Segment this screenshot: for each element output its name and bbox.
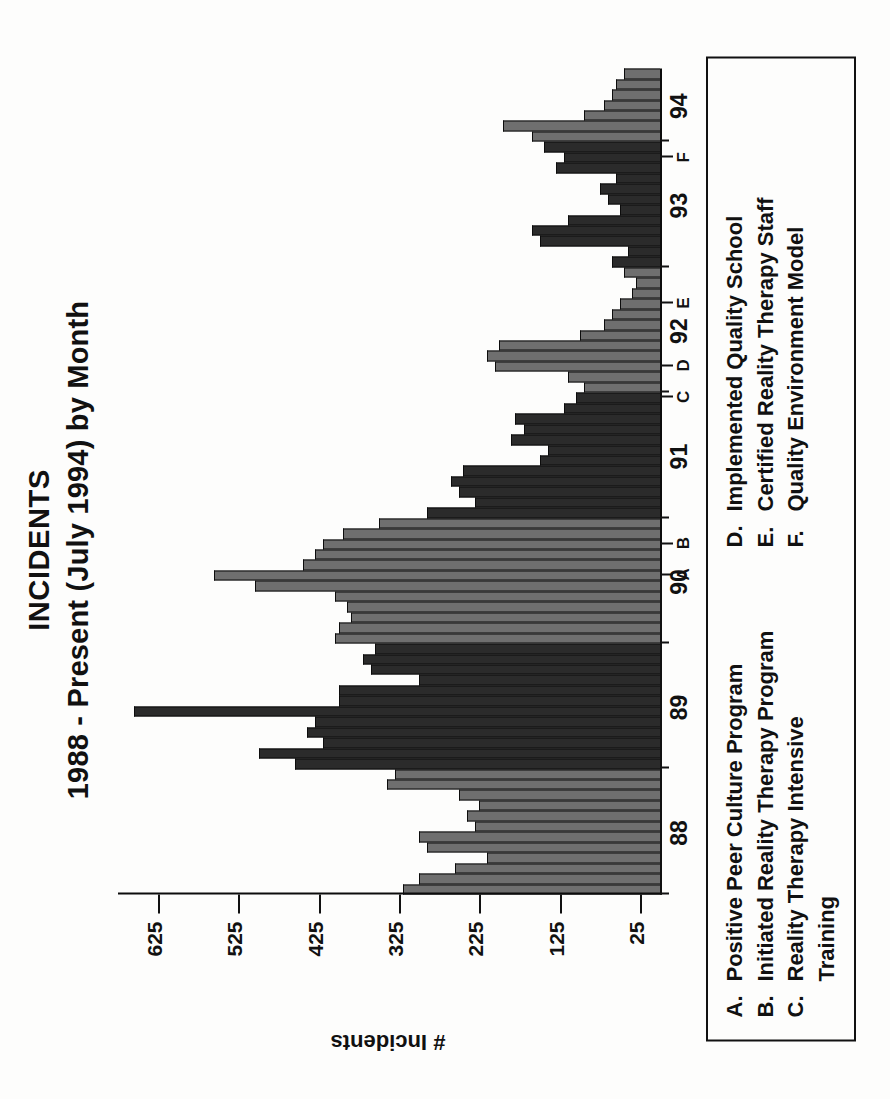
legend-item-key: F. <box>782 511 811 547</box>
bar <box>532 225 660 235</box>
chart-subtitle: 1988 - Present (July 1994) by Month <box>61 0 96 1099</box>
bar <box>544 141 660 151</box>
legend-column-right: D.Implemented Quality SchoolE.Certified … <box>721 77 854 547</box>
bar <box>568 371 660 381</box>
bar <box>584 110 660 120</box>
bar <box>475 497 660 507</box>
y-tick-label: 625 <box>143 891 167 1099</box>
x-tick-label: 92 <box>666 318 693 344</box>
x-tick-label: 88 <box>666 820 693 846</box>
bar <box>259 748 660 758</box>
legend-item-key: B. <box>752 981 781 1017</box>
bar <box>580 330 660 340</box>
legend-item-key: E. <box>752 511 781 547</box>
bar <box>612 309 660 319</box>
bar <box>515 413 660 423</box>
event-marker-b <box>660 542 673 544</box>
bar <box>632 288 660 298</box>
bar <box>612 256 660 266</box>
bar <box>616 173 660 183</box>
legend-box: A.Positive Peer Culture ProgramB.Initiat… <box>706 56 856 1041</box>
legend-item-label: Implemented Quality School <box>721 77 750 511</box>
bar <box>487 852 660 862</box>
y-tick-label: 325 <box>384 891 408 1099</box>
bar <box>495 361 660 371</box>
bar <box>564 403 660 413</box>
bar <box>540 455 660 465</box>
bar <box>475 821 660 831</box>
axis-span-rule <box>660 575 662 894</box>
bar-series <box>118 68 660 894</box>
legend-item-key: A. <box>721 981 750 1017</box>
event-marker-f <box>660 155 673 157</box>
y-tick-label: 25 <box>625 891 649 1099</box>
x-tick-label: 89 <box>666 694 693 720</box>
bar <box>323 737 660 747</box>
bar <box>463 465 660 475</box>
event-marker-c <box>660 395 673 397</box>
bar <box>295 758 660 768</box>
event-marker-label-c: C <box>674 390 694 402</box>
bar <box>335 633 660 643</box>
x-tick-label: 94 <box>666 93 693 119</box>
plot-area <box>118 68 660 894</box>
event-marker-d <box>660 364 673 366</box>
bar <box>427 842 660 852</box>
bar <box>419 674 660 684</box>
legend-item: D.Implemented Quality School <box>721 77 750 547</box>
event-marker-e <box>660 301 673 303</box>
bar <box>419 873 660 883</box>
bar <box>624 68 660 78</box>
bar <box>339 685 660 695</box>
legend-item-continuation: Training <box>813 547 842 981</box>
legend-item-label: Positive Peer Culture Program <box>721 547 750 981</box>
legend-item-label: Quality Environment Model <box>782 77 811 511</box>
legend-item-label: Reality Therapy Intensive <box>782 547 811 981</box>
chart-title: INCIDENTS <box>22 0 57 1099</box>
legend-item: E.Certified Reality Therapy Staff <box>752 77 781 547</box>
bar <box>564 152 660 162</box>
bar <box>604 100 660 110</box>
bar <box>339 695 660 705</box>
bar <box>556 162 660 172</box>
bar <box>511 434 660 444</box>
y-tick-label: 125 <box>545 891 569 1099</box>
bar <box>608 194 660 204</box>
bar <box>636 277 660 287</box>
bar <box>499 340 660 350</box>
y-tick-label: 225 <box>464 891 488 1099</box>
bar <box>347 601 660 611</box>
event-marker-label-f: F <box>674 152 694 162</box>
event-marker-label-a: A <box>674 568 694 580</box>
legend-item-key: C. <box>782 981 811 1017</box>
bar <box>616 79 660 89</box>
x-tick-mark <box>660 390 669 392</box>
y-tick-label: 525 <box>223 891 247 1099</box>
bar <box>315 716 660 726</box>
bar <box>343 528 660 538</box>
bar <box>459 789 660 799</box>
bar <box>568 215 660 225</box>
bar <box>363 654 660 664</box>
bar <box>524 424 661 434</box>
bar <box>540 235 660 245</box>
bar <box>584 382 660 392</box>
chart-title-block: INCIDENTS 1988 - Present (July 1994) by … <box>22 0 97 1099</box>
bar <box>303 560 660 570</box>
bar <box>419 831 660 841</box>
bar <box>624 267 660 277</box>
bar <box>576 392 660 402</box>
legend-item-key: D. <box>721 511 750 547</box>
bar <box>339 622 660 632</box>
bar <box>387 779 660 789</box>
bar <box>307 727 660 737</box>
bar <box>532 131 660 141</box>
bar <box>335 591 660 601</box>
bar <box>255 580 661 590</box>
legend-column-left: A.Positive Peer Culture ProgramB.Initiat… <box>721 547 854 1017</box>
bar <box>503 120 660 130</box>
bar <box>451 476 660 486</box>
event-marker-label-d: D <box>674 359 694 371</box>
bar <box>379 518 660 528</box>
bar <box>628 246 660 256</box>
